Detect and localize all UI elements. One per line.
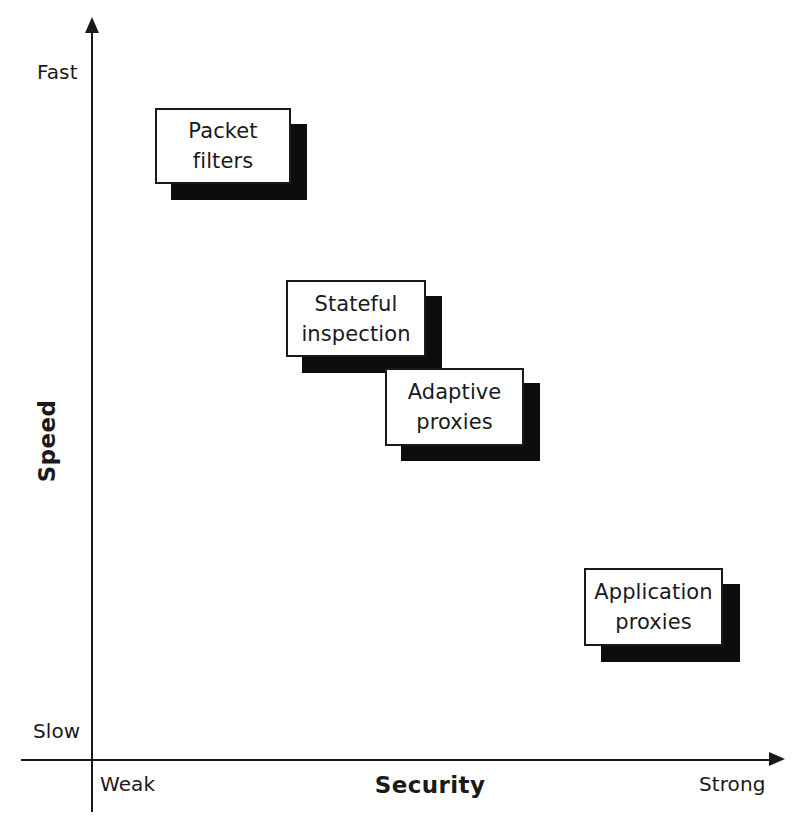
x-axis-max-label: Strong — [699, 772, 766, 796]
adaptive-proxies-label-line1: Adaptive — [408, 380, 502, 404]
stateful-inspection-box: Stateful inspection — [286, 280, 426, 357]
adaptive-proxies-label-line2: proxies — [416, 410, 493, 434]
application-proxies-label-line1: Application — [594, 580, 712, 604]
adaptive-proxies-label: Adaptive proxies — [402, 377, 508, 437]
stateful-inspection-label-line1: Stateful — [315, 292, 398, 316]
x-axis-arrow-icon — [769, 752, 785, 766]
y-axis-line — [91, 28, 93, 812]
packet-filters-label-line1: Packet — [188, 119, 257, 143]
application-proxies-label-line2: proxies — [615, 610, 692, 634]
y-axis-title: Speed — [34, 391, 60, 491]
stateful-inspection-label: Stateful inspection — [295, 289, 416, 349]
packet-filters-label: Packet filters — [182, 116, 263, 176]
x-axis-line — [21, 759, 778, 761]
y-axis-max-label: Fast — [37, 60, 78, 84]
x-axis-min-label: Weak — [100, 772, 155, 796]
stateful-inspection-label-line2: inspection — [301, 322, 410, 346]
application-proxies-label: Application proxies — [588, 577, 718, 637]
speed-vs-security-chart: Fast Slow Weak Strong Speed Security Pac… — [0, 0, 803, 829]
packet-filters-box: Packet filters — [155, 108, 291, 184]
packet-filters-label-line2: filters — [193, 149, 254, 173]
x-axis-title: Security — [345, 772, 515, 798]
y-axis-arrow-icon — [85, 17, 99, 33]
application-proxies-box: Application proxies — [584, 568, 723, 646]
y-axis-min-label: Slow — [33, 719, 80, 743]
adaptive-proxies-box: Adaptive proxies — [385, 368, 524, 446]
